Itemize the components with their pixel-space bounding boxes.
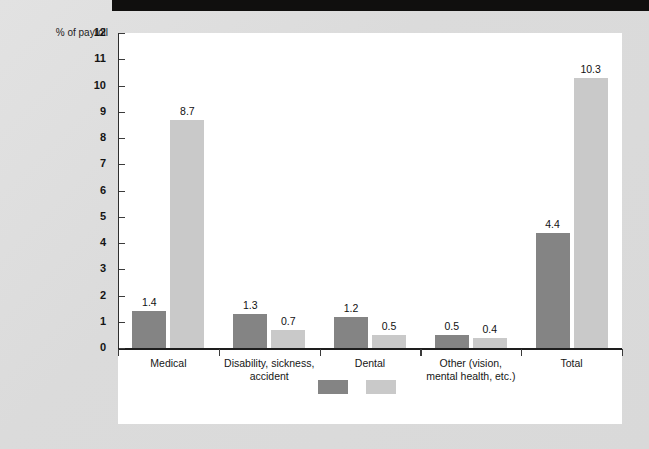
y-tick-label: 1 [84,315,106,327]
y-tick-label: 4 [84,236,106,248]
category-label: Total [513,357,630,370]
bar-value-label: 1.2 [326,302,376,314]
bar-value-label: 0.7 [263,315,313,327]
bar-value-label: 0.5 [364,320,414,332]
y-tick-label: 0 [84,341,106,353]
bar-canada [132,311,166,348]
legend-swatch-united-states [366,380,396,394]
legend-swatch-canada [318,380,348,394]
y-tick-mark [119,348,125,349]
y-tick-label: 12 [84,26,106,38]
category-label: Medical [110,357,227,370]
category-label: Disability, sickness, accident [211,357,328,382]
category-label: Other (vision, mental health, etc.) [412,357,529,382]
x-axis-line [118,348,622,350]
y-tick-label: 10 [84,79,106,91]
bar-united-states [372,335,406,348]
bar-value-label: 10.3 [566,63,616,75]
x-tick-mark [118,349,119,356]
category-label: Dental [312,357,429,370]
x-tick-mark [219,349,220,356]
bar-value-label: 1.3 [225,299,275,311]
bar-canada [233,314,267,348]
y-tick-label: 5 [84,210,106,222]
chart-page: % of payroll 0123456789101112 1.48.71.30… [0,0,649,449]
bar-united-states [473,338,507,349]
legend-swatches [318,380,396,394]
bar-value-label: 8.7 [162,105,212,117]
y-tick-label: 11 [84,52,106,64]
y-tick-label: 9 [84,105,106,117]
y-tick-label: 8 [84,131,106,143]
bar-united-states [170,120,204,348]
bar-united-states [574,78,608,348]
bar-value-label: 4.4 [528,218,578,230]
y-tick-label: 2 [84,289,106,301]
x-tick-mark [320,349,321,356]
y-tick-label: 3 [84,262,106,274]
x-tick-mark [420,349,421,356]
bar-canada [536,233,570,349]
bar-canada [334,317,368,349]
x-tick-mark [622,349,623,356]
bar-value-label: 1.4 [124,296,174,308]
y-tick-label: 7 [84,157,106,169]
bar-canada [435,335,469,348]
bar-value-label: 0.4 [465,323,515,335]
y-tick-label: 6 [84,184,106,196]
top-black-band [112,0,649,11]
x-tick-mark [521,349,522,356]
bar-united-states [271,330,305,348]
